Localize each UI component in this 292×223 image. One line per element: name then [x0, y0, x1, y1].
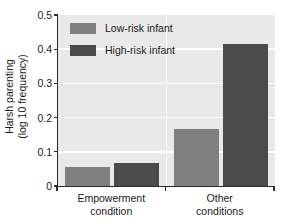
x-axis-category-label: Empowermentcondition [77, 192, 145, 217]
x-axis-category-line2: conditions [196, 205, 243, 217]
legend-label: High-risk infant [105, 44, 175, 56]
legend-label: Low-risk infant [105, 22, 173, 34]
x-axis-tick-mark [273, 186, 274, 191]
x-axis-tick-mark [56, 186, 57, 191]
x-axis-category-label: Otherconditions [196, 192, 243, 217]
bar-low-risk-infant-group-1 [174, 129, 219, 186]
bar-chart-figure: Harsh parenting (log 10 frequency) 0.50.… [0, 0, 292, 223]
y-axis-title: Harsh parenting (log 10 frequency) [0, 0, 30, 192]
legend-swatch-icon [70, 45, 96, 56]
y-axis-title-text: Harsh parenting (log 10 frequency) [3, 54, 28, 139]
y-axis-tick-label: 0.2 [37, 112, 52, 124]
y-axis-tick-label: 0.3 [37, 77, 52, 89]
bar-high-risk-infant-group-0 [114, 163, 159, 186]
y-axis-tick-label: 0.1 [37, 146, 52, 158]
y-axis-tick-label: 0.5 [37, 9, 52, 21]
y-axis-tick-labels: 0.50.40.30.20.10 [28, 0, 55, 192]
x-axis-tick-mark [165, 186, 166, 191]
x-axis-category-line1: Empowerment [77, 192, 145, 204]
legend-item: High-risk infant [70, 41, 175, 59]
legend-item: Low-risk infant [70, 19, 175, 37]
y-axis-tick-label: 0.4 [37, 43, 52, 55]
bar-high-risk-infant-group-1 [223, 44, 268, 186]
x-axis-category-line1: Other [207, 192, 233, 204]
y-axis-title-line2: (log 10 frequency) [15, 54, 27, 139]
y-axis-tick-mark [54, 14, 59, 15]
x-axis-category-line2: condition [90, 205, 132, 217]
y-axis-tick-label: 0 [46, 180, 52, 192]
legend: Low-risk infantHigh-risk infant [70, 19, 175, 63]
y-axis-title-line1: Harsh parenting [3, 59, 15, 134]
bar-low-risk-infant-group-0 [65, 167, 110, 186]
legend-swatch-icon [70, 23, 96, 34]
